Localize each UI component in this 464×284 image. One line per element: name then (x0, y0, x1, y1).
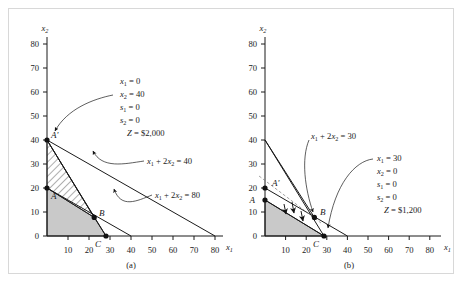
panel-b-svg: 80 70 60 50 40 30 20 10 0 10 20 30 40 50… (231, 9, 455, 275)
figure-frame: 80 70 60 50 40 30 20 10 0 10 20 30 40 50… (8, 8, 454, 274)
vertex-a-prime-dot (44, 137, 49, 142)
vertex-label-a-prime-b: A' (271, 178, 280, 188)
svg-text:x1 = 30: x1 = 30 (376, 153, 402, 164)
y-tick-label: 50 (248, 111, 257, 121)
svg-text:Z = $2,000: Z = $2,000 (127, 128, 165, 138)
leader-line-40-a (93, 151, 144, 164)
x-tick-label: 80 (211, 245, 220, 255)
vertex-c-dot-b (321, 233, 326, 238)
svg-text:s1 = 0: s1 = 0 (377, 179, 397, 190)
vertex-b-dot (92, 215, 97, 220)
x-tick-label: 50 (148, 245, 157, 255)
y-tick-label: 20 (248, 183, 257, 193)
x-tick-label: 70 (190, 245, 199, 255)
vertex-b-dot-b (312, 215, 317, 220)
panel-a: 80 70 60 50 40 30 20 10 0 10 20 30 40 50… (9, 9, 237, 275)
x-tick-label: 60 (384, 245, 393, 255)
line-label-80-a: x1 + 2x2 = 80 (154, 190, 200, 201)
svg-text:s1 = 0: s1 = 0 (120, 102, 140, 113)
svg-text:Z = $1,200: Z = $1,200 (384, 205, 422, 215)
x-tick-label: 10 (281, 245, 290, 255)
y-tick-label: 40 (30, 135, 39, 145)
x-tick-label: 70 (405, 245, 414, 255)
leader-line-30-b (305, 140, 313, 212)
line-label-30-b: x1 + 2x2 = 30 (310, 131, 356, 142)
vertex-label-b: B (99, 208, 105, 218)
vertex-a-dot (44, 185, 49, 190)
x-tick-label: 60 (169, 245, 178, 255)
x-tick-label: 50 (364, 245, 373, 255)
x-tick-label: 40 (343, 245, 352, 255)
x-tick-label: 30 (323, 245, 332, 255)
x-tick-label: 10 (64, 245, 73, 255)
svg-text:s2 = 0: s2 = 0 (120, 115, 140, 126)
y-axis-title-a: x2 (41, 23, 49, 34)
leader-solution-b (328, 159, 373, 228)
vertex-label-a-prime: A' (50, 130, 59, 140)
x-tick-label: 20 (302, 245, 311, 255)
y-axis-title-b: x2 (259, 23, 267, 34)
x-tick-label: 20 (85, 245, 94, 255)
y-tick-label: 10 (248, 207, 257, 217)
y-tick-label: 70 (30, 63, 39, 73)
svg-text:x2 = 0: x2 = 0 (376, 166, 397, 177)
solution-block-a: x1 = 0 x2 = 40 s1 = 0 s2 = 0 Z = $2,000 (119, 76, 165, 138)
y-tick-label: 80 (30, 39, 39, 49)
svg-text:x1 + 2x2 = 30: x1 + 2x2 = 30 (310, 131, 356, 142)
svg-text:x1 = 0: x1 = 0 (119, 76, 140, 87)
y-tick-label: 20 (30, 183, 39, 193)
y-tick-label: 30 (30, 159, 39, 169)
y-tick-label: 30 (248, 159, 257, 169)
x-ticks-b (286, 236, 430, 240)
x-tick-label: 40 (127, 245, 136, 255)
y-tick-label: 50 (30, 111, 39, 121)
leader-solution-a (55, 95, 113, 131)
x-tick-label: 80 (426, 245, 435, 255)
y-tick-label: 10 (30, 207, 39, 217)
vertex-label-b-b: B (320, 207, 326, 217)
solution-block-b: x1 = 30 x2 = 0 s1 = 0 s2 = 0 Z = $1,200 (376, 153, 422, 215)
y-tick-label: 0 (253, 231, 257, 241)
leader-line-80-a (114, 189, 152, 202)
line-label-40-a: x1 + 2x2 = 40 (146, 156, 192, 167)
y-tick-label: 60 (30, 87, 39, 97)
vertex-a-prime-dot-b (262, 185, 267, 190)
vertex-label-a-b: A (249, 195, 256, 205)
vertex-label-c-b: C (313, 239, 320, 249)
y-tick-label: 0 (35, 231, 39, 241)
svg-text:s2 = 0: s2 = 0 (377, 192, 397, 203)
y-tick-label: 80 (248, 39, 257, 49)
x-ticks-a (68, 236, 215, 240)
vertex-c-dot (103, 233, 108, 238)
y-ticks-b (261, 44, 265, 236)
y-tick-label: 60 (248, 87, 257, 97)
x-axis-title-b: x1 (443, 242, 451, 253)
vertex-label-c: C (95, 239, 102, 249)
svg-text:x1 + 2x2 = 40: x1 + 2x2 = 40 (146, 156, 192, 167)
caption-b: (b) (344, 260, 354, 270)
x-tick-label: 30 (106, 245, 115, 255)
y-tick-label: 40 (248, 135, 257, 145)
panel-a-svg: 80 70 60 50 40 30 20 10 0 10 20 30 40 50… (9, 9, 237, 275)
y-tick-label: 70 (248, 63, 257, 73)
svg-text:x2 = 40: x2 = 40 (119, 89, 145, 100)
svg-text:x1 + 2x2 = 80: x1 + 2x2 = 80 (154, 190, 200, 201)
panel-b: 80 70 60 50 40 30 20 10 0 10 20 30 40 50… (231, 9, 455, 275)
vertex-label-a: A (50, 191, 57, 201)
caption-a: (a) (126, 260, 136, 270)
vertex-a-dot-b (262, 197, 267, 202)
